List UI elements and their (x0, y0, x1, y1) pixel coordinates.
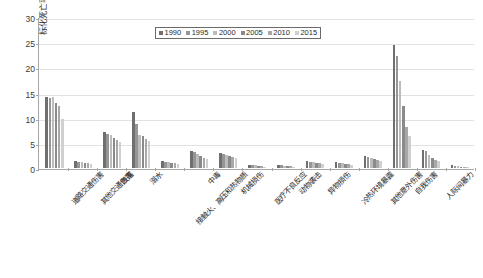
x-axis-tick-mark (184, 168, 185, 171)
bar-group (272, 18, 301, 168)
x-axis-tick-mark (68, 168, 69, 171)
legend-swatch (295, 31, 299, 35)
y-axis-tick-label: 10 (26, 115, 35, 125)
x-axis-tick-mark (272, 168, 273, 171)
legend-item[interactable]: 2000 (213, 29, 235, 37)
x-axis-tick-mark (330, 168, 331, 171)
x-axis-tick-mark (126, 168, 127, 171)
x-axis-tick-label: 接触火、高压和热物质 (194, 171, 249, 226)
x-axis-tick-mark (359, 168, 360, 171)
legend-label: 1990 (165, 29, 182, 37)
y-axis-tick-label: 15 (26, 90, 35, 100)
legend-label: 2005 (246, 29, 263, 37)
bar[interactable] (466, 167, 469, 168)
bar-group (98, 18, 127, 168)
y-axis-tick-mark (36, 69, 39, 70)
bar[interactable] (350, 165, 353, 168)
bar-chart: 051015202530 标化死亡率（/10万） 199019952000200… (0, 0, 483, 278)
y-axis-tick-mark (36, 95, 39, 96)
bar[interactable] (408, 136, 411, 168)
x-axis-tick-label: 异物损伤 (327, 171, 352, 196)
x-axis-tick-label: 人际间暴力 (446, 171, 476, 201)
x-axis-tick-mark (446, 168, 447, 171)
y-axis-tick-label: 0 (30, 165, 35, 175)
bar[interactable] (321, 164, 324, 168)
bar-group (329, 18, 358, 168)
bar[interactable] (61, 119, 64, 168)
legend-label: 2010 (273, 29, 290, 37)
legend-item[interactable]: 1990 (159, 29, 181, 37)
bar[interactable] (148, 141, 151, 168)
x-axis-tick-mark (97, 168, 98, 171)
bar-group (40, 18, 69, 168)
bar[interactable] (90, 164, 93, 168)
bar-group (300, 18, 329, 168)
bar-group (185, 18, 214, 168)
y-axis-tick-label: 5 (30, 140, 35, 150)
bar[interactable] (177, 164, 180, 168)
bar[interactable] (379, 161, 382, 168)
y-axis-tick-mark (36, 145, 39, 146)
bar[interactable] (263, 167, 266, 169)
y-axis-tick-label: 25 (26, 39, 35, 49)
x-axis-tick-mark (242, 168, 243, 171)
bar[interactable] (292, 167, 295, 169)
legend-swatch (241, 31, 245, 35)
bar-group (156, 18, 185, 168)
bar[interactable] (437, 161, 440, 168)
legend-item[interactable]: 2015 (295, 29, 317, 37)
bar-group (69, 18, 98, 168)
y-axis-tick-mark (36, 120, 39, 121)
bar[interactable] (119, 142, 122, 168)
bar-group (243, 18, 272, 168)
y-axis-tick-label: 30 (26, 14, 35, 24)
bar-group (358, 18, 387, 168)
bar-group (127, 18, 156, 168)
legend-label: 2015 (300, 29, 317, 37)
legend-swatch (159, 31, 163, 35)
legend-item[interactable]: 2010 (268, 29, 290, 37)
bar-group (416, 18, 445, 168)
legend-swatch (213, 31, 217, 35)
bar-groups (40, 18, 474, 168)
bar-group (214, 18, 243, 168)
x-axis-tick-mark (388, 168, 389, 171)
x-axis-tick-mark (213, 168, 214, 171)
legend-item[interactable]: 1995 (186, 29, 208, 37)
chart-legend: 199019952000200520102015 (155, 27, 321, 39)
legend-label: 1995 (192, 29, 209, 37)
x-axis-tick-mark (417, 168, 418, 171)
legend-swatch (268, 31, 272, 35)
bar-group (387, 18, 416, 168)
bar[interactable] (235, 158, 238, 168)
plot-area: 051015202530 标化死亡率（/10万） (38, 18, 474, 170)
bar[interactable] (206, 159, 209, 168)
y-axis-tick-label: 20 (26, 64, 35, 74)
x-axis-tick-mark (155, 168, 156, 171)
x-axis-tick-label: 中毒 (207, 171, 222, 186)
bar-group (445, 18, 474, 168)
x-axis-tick-mark (301, 168, 302, 171)
x-axis-tick-label: 溺水 (149, 171, 164, 186)
x-axis-tick-mark (475, 168, 476, 171)
x-axis-labels: 道路交通伤害其他交通伤害跌落溺水接触火、高压和热物质中毒机械损伤医疗不良反应动物… (39, 171, 475, 276)
legend-swatch (186, 31, 190, 35)
legend-item[interactable]: 2005 (241, 29, 263, 37)
legend-label: 2000 (219, 29, 236, 37)
